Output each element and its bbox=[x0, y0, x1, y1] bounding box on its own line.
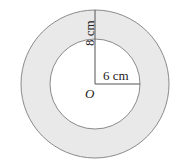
inner-radius-label: 6 cm bbox=[103, 68, 129, 83]
center-label: O bbox=[85, 86, 95, 101]
annulus-diagram: 8 cm 6 cm O bbox=[0, 0, 182, 164]
outer-radius-label: 8 cm bbox=[82, 20, 97, 46]
